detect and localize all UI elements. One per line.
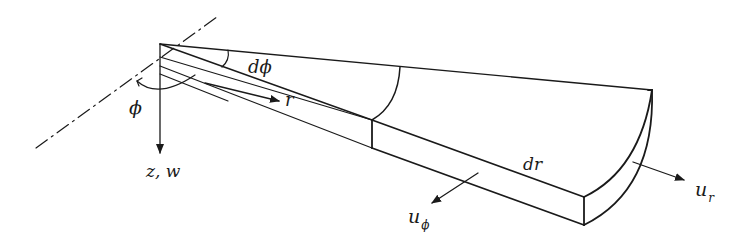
label-u-r: ur bbox=[695, 180, 714, 199]
diagram-drawing bbox=[0, 0, 743, 235]
u-r-arrow bbox=[633, 162, 684, 180]
label-r: r bbox=[285, 91, 294, 109]
wedge-outer-edge bbox=[160, 44, 652, 90]
label-u-phi-sub: ϕ bbox=[421, 218, 429, 232]
wedge-diagram: ϕ dϕ r z, w dr uϕ ur bbox=[0, 0, 743, 235]
inner-arc bbox=[372, 67, 400, 120]
label-u-phi: uϕ bbox=[408, 207, 429, 226]
label-u-r-sub: r bbox=[708, 191, 714, 205]
dphi-angle-arc bbox=[222, 50, 228, 67]
label-dr: dr bbox=[523, 156, 542, 173]
label-u-r-base: u bbox=[695, 178, 707, 200]
block-outer-arc-bottom bbox=[584, 90, 652, 225]
block-top-front-edge bbox=[372, 120, 584, 197]
label-z-w: z, w bbox=[146, 163, 180, 180]
reference-axis bbox=[36, 17, 217, 148]
label-u-phi-base: u bbox=[408, 205, 420, 227]
label-phi: ϕ bbox=[129, 98, 142, 117]
label-dphi: dϕ bbox=[248, 58, 272, 76]
block-outer-arc-top bbox=[584, 90, 652, 197]
phi-angle-arc bbox=[137, 75, 195, 89]
block-bottom-front-edge bbox=[372, 148, 584, 225]
